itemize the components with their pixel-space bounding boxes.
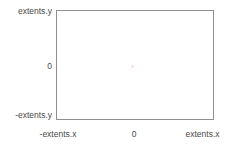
x-axis-label-max: extents.x <box>175 129 230 139</box>
y-axis-label-max: extents.y <box>18 6 52 16</box>
x-axis-label-zero: 0 <box>116 129 152 139</box>
extents-coordinate-diagram: extents.y 0 -extents.y -extents.x 0 exte… <box>0 0 232 144</box>
y-axis-label-min: -extents.y <box>15 110 52 120</box>
x-axis-label-min: -extents.x <box>28 129 88 139</box>
origin-point-marker <box>131 65 134 68</box>
y-axis-label-zero: 0 <box>47 61 52 71</box>
plot-area <box>56 10 214 120</box>
